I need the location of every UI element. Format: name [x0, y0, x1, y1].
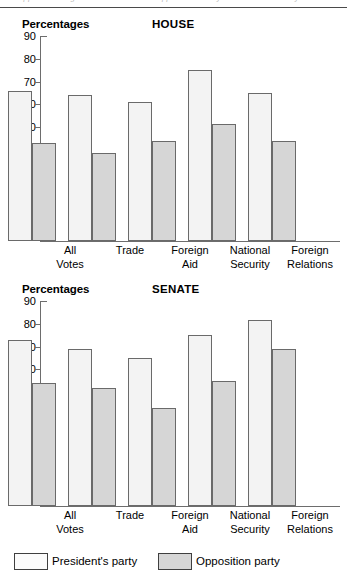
bar-opposition-party [272, 141, 296, 241]
y-axis-title: Percentages [22, 283, 89, 295]
bar-presidents-party [8, 91, 32, 241]
x-tick-labels: All VotesTradeForeign AidNational Securi… [40, 509, 340, 541]
bar-presidents-party [248, 320, 272, 506]
x-tick-label: Foreign Relations [274, 509, 346, 536]
bar-presidents-party [68, 349, 92, 506]
bar-presidents-party [248, 93, 272, 241]
bar-presidents-party [68, 95, 92, 241]
chart-house-plot: 908070605040302010 All VotesTradeForeign… [0, 36, 347, 254]
chart-senate-header: Percentages SENATE [0, 283, 347, 301]
bar-presidents-party [188, 335, 212, 506]
bar-opposition-party [92, 388, 116, 506]
chart-title: SENATE [152, 283, 200, 295]
legend-item-label: Opposition party [196, 555, 280, 567]
bar-opposition-party [32, 143, 56, 241]
bar-opposition-party [32, 383, 56, 506]
legend-swatch-icon [14, 553, 48, 570]
bar-presidents-party [128, 102, 152, 241]
x-tick-labels: All VotesTradeForeign AidNational Securi… [40, 244, 340, 276]
cut-off-header-text: Appendix B Figure B-3 Presidential Suppo… [18, 0, 338, 3]
bar-presidents-party [128, 358, 152, 506]
chart-senate-plot: 908070605040302010 All VotesTradeForeign… [0, 301, 347, 519]
bar-opposition-party [152, 141, 176, 241]
x-tick-label: Foreign Relations [274, 244, 346, 271]
bar-opposition-party [272, 349, 296, 506]
bar-presidents-party [188, 70, 212, 241]
legend-item-opposition-party: Opposition party [158, 550, 280, 572]
header-divider [0, 7, 347, 8]
bar-presidents-party [8, 340, 32, 506]
chart-house: Percentages HOUSE 908070605040302010 All… [0, 18, 347, 36]
bar-series-container [0, 301, 300, 507]
chart-legend: President's party Opposition party [14, 550, 334, 574]
chart-senate: Percentages SENATE 908070605040302010 Al… [0, 283, 347, 301]
bar-series-container [0, 36, 300, 242]
chart-house-header: Percentages HOUSE [0, 18, 347, 36]
legend-item-label: President's party [52, 555, 137, 567]
bar-opposition-party [212, 381, 236, 506]
figure-page: Appendix B Figure B-3 Presidential Suppo… [0, 0, 347, 582]
y-axis-title: Percentages [22, 18, 89, 30]
legend-item-presidents-party: President's party [14, 550, 137, 572]
chart-title: HOUSE [152, 18, 194, 30]
bar-opposition-party [152, 408, 176, 506]
bar-opposition-party [92, 153, 116, 241]
legend-swatch-icon [158, 553, 192, 570]
bar-opposition-party [212, 124, 236, 241]
